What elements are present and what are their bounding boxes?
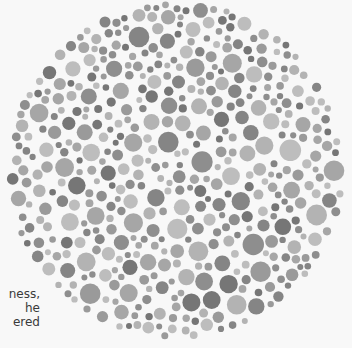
plate-dot	[325, 105, 331, 111]
plate-dot	[105, 29, 113, 37]
plate-dot	[154, 60, 162, 68]
plate-dot	[36, 216, 44, 224]
plate-dot	[178, 14, 184, 20]
plate-dot	[156, 52, 163, 59]
plate-dot	[268, 183, 278, 193]
plate-dot	[136, 97, 142, 103]
plate-dot	[114, 305, 129, 320]
plate-dot	[218, 68, 224, 74]
plate-dot	[215, 77, 229, 91]
plate-dot	[206, 51, 217, 62]
plate-dot	[36, 78, 43, 85]
plate-dot	[265, 282, 275, 292]
plate-dot	[186, 59, 204, 77]
plate-dot	[167, 219, 187, 239]
plate-dot	[117, 133, 124, 140]
plate-dot	[227, 103, 235, 111]
plate-dot	[283, 182, 300, 199]
plate-dot	[133, 62, 143, 72]
plate-dot	[95, 234, 105, 244]
plate-dot	[312, 189, 321, 198]
plate-dot	[148, 145, 157, 154]
plate-dot	[255, 137, 273, 155]
plate-dot	[292, 170, 303, 181]
plate-dot	[263, 94, 269, 100]
plate-dot	[106, 202, 115, 211]
plate-dot	[106, 224, 116, 234]
plate-dot	[263, 113, 279, 129]
plate-dot	[253, 190, 263, 200]
plate-dot	[212, 64, 218, 70]
plate-dot	[65, 290, 72, 297]
plate-dot	[41, 161, 53, 173]
plate-dot	[53, 93, 64, 104]
plate-dot	[151, 272, 158, 279]
plate-dot	[270, 253, 278, 261]
plate-dot	[284, 51, 291, 58]
plate-dot	[92, 246, 101, 255]
plate-dot	[82, 114, 88, 120]
plate-dot	[245, 182, 254, 191]
plate-dot	[139, 275, 149, 285]
plate-dot	[56, 142, 62, 148]
plate-dot	[42, 262, 55, 275]
plate-dot	[123, 194, 137, 208]
plate-dot	[271, 203, 279, 211]
plate-dot	[271, 160, 278, 167]
plate-dot	[229, 13, 236, 20]
plate-dot	[66, 41, 76, 51]
plate-dot	[122, 44, 129, 51]
plate-dot	[141, 236, 148, 243]
plate-dot	[43, 66, 56, 79]
plate-dot	[243, 46, 252, 55]
plate-dot	[93, 83, 100, 90]
plate-dot	[290, 132, 296, 138]
plate-dot	[190, 175, 199, 184]
plate-dot	[151, 242, 159, 250]
plate-dot	[239, 285, 247, 293]
plate-dot	[100, 56, 107, 63]
plate-dot	[304, 181, 313, 190]
plate-dot	[32, 251, 44, 263]
plate-dot	[270, 98, 277, 105]
plate-dot	[45, 89, 51, 95]
plate-dot	[324, 129, 331, 136]
plate-dot	[145, 313, 152, 320]
plate-dot	[77, 34, 84, 41]
plate-dot	[16, 119, 29, 132]
plate-dot	[84, 27, 91, 34]
plate-dot	[255, 289, 263, 297]
plate-dot	[257, 219, 269, 231]
plate-dot	[195, 201, 206, 212]
plate-dot	[68, 80, 75, 87]
plate-dot	[313, 136, 322, 145]
plate-dot	[173, 170, 186, 183]
plate-dot	[144, 4, 151, 11]
plate-dot	[55, 158, 74, 177]
plate-dot	[211, 178, 223, 190]
plate-dot	[146, 90, 158, 102]
plate-dot	[310, 151, 321, 162]
plate-dot	[243, 125, 259, 141]
plate-dot	[161, 98, 177, 114]
plate-dot	[219, 275, 237, 293]
plate-dot	[118, 163, 130, 175]
plate-dot	[142, 322, 154, 334]
plate-dot	[285, 110, 293, 118]
plate-dot	[246, 225, 252, 231]
plate-dot	[177, 22, 183, 28]
plate-dot	[39, 203, 51, 215]
plate-dot	[48, 126, 61, 139]
plate-dot	[61, 237, 73, 249]
plate-dot	[178, 269, 194, 285]
plate-dot	[223, 54, 242, 73]
plate-dot	[268, 172, 274, 178]
plate-dot	[281, 66, 288, 73]
plate-dot	[281, 120, 289, 128]
plate-dot	[29, 154, 35, 160]
plate-dot	[99, 269, 112, 282]
plate-dot	[302, 270, 309, 277]
plate-dot	[286, 268, 299, 281]
plate-dot	[89, 271, 95, 277]
plate-dot	[142, 295, 151, 304]
